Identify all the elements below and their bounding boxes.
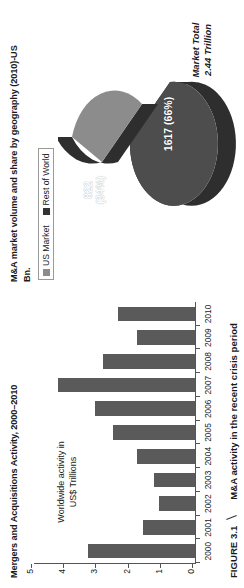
x-tick-2010 xyxy=(196,325,200,326)
rotated-figure-canvas: Mergers and Acquisitions Activity, 2000–… xyxy=(0,0,244,588)
market-total-line-1: Market Total xyxy=(190,4,202,96)
x-tick-2001 xyxy=(196,538,200,539)
pie-chart-title: M&A market volume and share by geography… xyxy=(8,42,33,282)
bar-2001 xyxy=(143,520,195,535)
bar-2002 xyxy=(159,496,195,511)
y-tick-label-2: 2 xyxy=(122,569,132,581)
y-tick-2 xyxy=(128,564,129,568)
x-tick-label-2005: 2005 xyxy=(203,420,213,446)
market-total-annotation: Market Total 2.44 Trillion xyxy=(190,4,214,96)
figure-3-1: Mergers and Acquisitions Activity, 2000–… xyxy=(0,0,244,588)
y-tick-label-4: 4 xyxy=(57,569,67,581)
x-tick-label-2000: 2000 xyxy=(203,538,213,564)
caption-number: FIGURE 3.1 xyxy=(228,526,239,578)
x-tick-label-2009: 2009 xyxy=(203,325,213,351)
x-tick-2009 xyxy=(196,348,200,349)
y-tick-label-5: 5 xyxy=(25,569,35,581)
y-tick-label-3: 3 xyxy=(89,569,99,581)
pie-slice-rest-of-world xyxy=(130,82,236,206)
bar-chart-panel: Mergers and Acquisitions Activity, 2000–… xyxy=(0,288,244,588)
x-tick-label-2006: 2006 xyxy=(203,396,213,422)
x-tick-2004 xyxy=(196,467,200,468)
y-tick-label-1: 1 xyxy=(154,569,164,581)
legend-label-us-market: US Market xyxy=(41,225,51,266)
x-tick-2007 xyxy=(196,396,200,397)
x-tick-label-2001: 2001 xyxy=(203,514,213,540)
x-tick-label-2010: 2010 xyxy=(203,301,213,327)
x-tick-label-2002: 2002 xyxy=(203,491,213,517)
x-tick-2003 xyxy=(196,491,200,492)
bar-2003 xyxy=(154,473,195,488)
bar-2005 xyxy=(113,425,195,440)
pie-chart-panel: M&A market volume and share by geography… xyxy=(0,0,244,288)
y-tick-4 xyxy=(63,564,64,568)
y-tick-1 xyxy=(160,564,161,568)
x-tick-2000 xyxy=(196,562,200,563)
y-axis-line xyxy=(34,563,196,564)
axis-note-line-2: US$ Trillions xyxy=(68,440,80,524)
legend-label-rest-of-world: Rest of World xyxy=(41,154,51,206)
figure-caption: FIGURE 3.1 M&A activity in the recent cr… xyxy=(227,323,239,578)
x-tick-2006 xyxy=(196,420,200,421)
bar-2007 xyxy=(58,378,195,393)
bar-2004 xyxy=(137,449,195,464)
y-tick-5 xyxy=(31,564,32,568)
legend-swatch-icon-us-market xyxy=(43,269,50,276)
pie-chart-legend: US Market Rest of World xyxy=(38,149,54,281)
x-tick-label-2008: 2008 xyxy=(203,348,213,374)
market-total-line-2: 2.44 Trillion xyxy=(202,4,214,96)
bar-2010 xyxy=(118,307,195,322)
y-tick-label-0: 0 xyxy=(186,569,196,581)
legend-swatch-icon-rest-of-world xyxy=(43,208,50,215)
x-tick-2008 xyxy=(196,372,200,373)
caption-slash-icon xyxy=(227,506,237,520)
x-tick-label-2003: 2003 xyxy=(203,467,213,493)
y-tick-0 xyxy=(192,564,193,568)
x-tick-2005 xyxy=(196,443,200,444)
x-tick-label-2004: 2004 xyxy=(203,443,213,469)
bar-2009 xyxy=(137,330,195,345)
x-axis-line xyxy=(195,302,196,564)
legend-item-us-market: US Market xyxy=(41,225,51,276)
bar-2008 xyxy=(103,354,195,369)
axis-note-line-1: Worldwide activity in xyxy=(56,440,68,524)
bar-2000 xyxy=(88,544,195,559)
legend-item-rest-of-world: Rest of World xyxy=(41,154,51,216)
x-tick-label-2007: 2007 xyxy=(203,372,213,398)
bar-chart-title: Mergers and Acquisitions Activity, 2000–… xyxy=(9,385,19,578)
bar-2006 xyxy=(95,401,195,416)
x-tick-2002 xyxy=(196,515,200,516)
caption-text: M&A activity in the recent crisis period xyxy=(228,323,239,500)
y-tick-3 xyxy=(95,564,96,568)
bar-chart-plot-area: 012345 200020012002200320042005200620072… xyxy=(30,302,196,564)
bar-chart-axis-note: Worldwide activity in US$ Trillions xyxy=(56,440,79,524)
